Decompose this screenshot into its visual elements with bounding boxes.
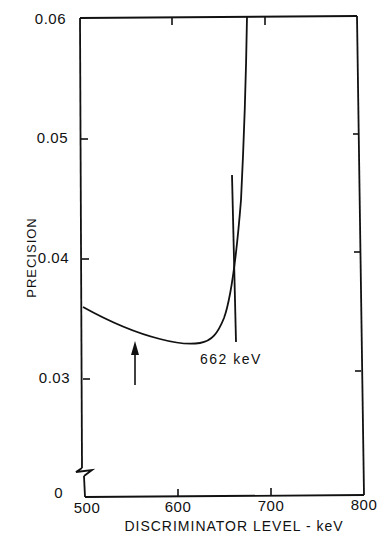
- y-axis-lower: [84, 476, 85, 497]
- x-axis-title: DISCRIMINATOR LEVEL - keV: [104, 518, 364, 534]
- x-tick-label: 800: [339, 496, 389, 513]
- x-tick-label: 700: [246, 497, 296, 514]
- x-tick-label: 500: [62, 499, 112, 516]
- y-axis-upper: [80, 18, 82, 468]
- y-axis-title: PRECISION: [24, 213, 39, 303]
- right-axis: [357, 16, 364, 495]
- chart-canvas: [0, 0, 391, 549]
- precision-chart: 0.06 0.05 0.04 0.03 0 500 600 700 800 PR…: [0, 0, 391, 549]
- y-tick-label: 0.05: [8, 129, 68, 146]
- y-tick-label: 0: [3, 484, 63, 501]
- y-tick-label: 0.06: [6, 10, 66, 27]
- 662-kev-annotation: 662 keV: [200, 351, 262, 367]
- plot-frame: [76, 16, 364, 497]
- x-ticks: [172, 17, 271, 496]
- optimum-arrow-icon: [131, 341, 139, 385]
- x-tick-label: 600: [153, 498, 203, 515]
- x-axis: [85, 495, 364, 497]
- precision-curve: [83, 17, 247, 344]
- top-axis: [80, 16, 357, 18]
- y-tick-label: 0.03: [10, 369, 70, 386]
- y-ticks-left: [81, 139, 90, 379]
- y-tick-label: 0.04: [9, 249, 69, 266]
- y-axis-break-icon: [76, 468, 92, 476]
